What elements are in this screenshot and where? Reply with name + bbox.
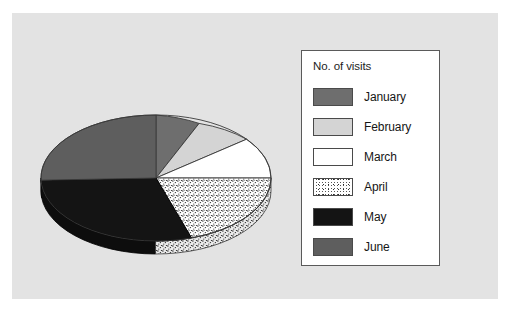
legend-label-may: May <box>364 210 386 224</box>
legend-swatch-june <box>313 238 353 256</box>
pie-slice-june[interactable] <box>41 115 156 180</box>
legend-label-february: February <box>364 120 411 134</box>
legend: No. of visits January February March Apr… <box>301 50 440 266</box>
legend-label-april: April <box>364 180 388 194</box>
legend-item-march[interactable]: March <box>313 142 433 172</box>
legend-swatch-may <box>313 208 353 226</box>
pie-chart <box>22 95 292 275</box>
pie-slices <box>41 115 271 241</box>
legend-label-january: January <box>364 90 406 104</box>
legend-item-january[interactable]: January <box>313 82 433 112</box>
legend-swatch-february <box>313 118 353 136</box>
legend-item-may[interactable]: May <box>313 202 433 232</box>
legend-label-march: March <box>364 150 397 164</box>
pie-chart-svg <box>22 95 292 275</box>
legend-items: January February March April May June <box>313 82 433 262</box>
legend-item-april[interactable]: April <box>313 172 433 202</box>
legend-label-june: June <box>364 240 390 254</box>
legend-swatch-march <box>313 148 353 166</box>
legend-swatch-january <box>313 88 353 106</box>
legend-item-june[interactable]: June <box>313 232 433 262</box>
legend-item-february[interactable]: February <box>313 112 433 142</box>
screenshot-root: No. of visits January February March Apr… <box>0 0 509 313</box>
legend-swatch-april <box>313 178 353 196</box>
legend-title: No. of visits <box>313 60 371 72</box>
